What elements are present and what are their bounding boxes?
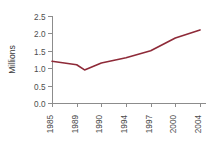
- chart-container: 0.00.51.01.52.02.5 198519891990199419972…: [0, 0, 214, 144]
- x-tick-label: 1997: [145, 115, 154, 134]
- x-tick-label: 2004: [194, 115, 203, 134]
- y-tick-label: 2.5: [34, 13, 46, 22]
- y-tick-label: 2.0: [34, 30, 46, 39]
- y-tick-label: 1.5: [34, 48, 46, 57]
- chart-background: [0, 0, 214, 144]
- y-tick-label: 0.0: [34, 100, 46, 109]
- x-tick-label: 1989: [71, 115, 80, 134]
- x-tick-label: 2000: [169, 115, 178, 134]
- x-tick-label: 1994: [120, 115, 129, 134]
- y-tick-label: 1.0: [34, 65, 46, 74]
- line-chart: 0.00.51.01.52.02.5 198519891990199419972…: [0, 0, 214, 144]
- y-axis-title: Millions: [7, 45, 17, 74]
- y-tick-label: 0.5: [34, 83, 46, 92]
- x-tick-label: 1985: [46, 115, 55, 134]
- x-tick-label: 1990: [95, 115, 104, 134]
